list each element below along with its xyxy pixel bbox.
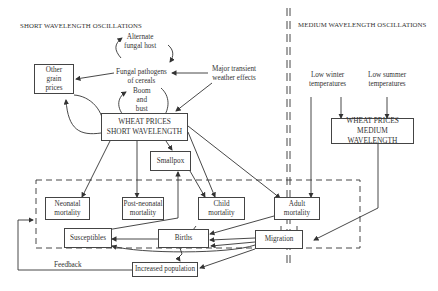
node-migration: Migration <box>255 230 303 249</box>
node-major-weather: Major transientweather effects <box>212 65 256 83</box>
node-neonatal-mortality: Neonatalmortality <box>45 197 90 220</box>
node-boom-bust: Boomandbust <box>133 87 151 114</box>
node-increased-population: Increased population <box>132 262 198 277</box>
node-births: Births <box>158 229 209 248</box>
node-low-summer: Low summertemperatures <box>368 71 406 89</box>
node-wheat-prices-medium: WHEAT PRICESMEDIUM WAVELENGTH <box>331 118 414 144</box>
node-wheat-prices-short: WHEAT PRICESSHORT WAVELENGTH <box>101 113 188 141</box>
node-fungal-pathogens: Fungal pathogensof cereals <box>116 68 167 86</box>
node-smallpox: Smallpox <box>150 151 191 171</box>
node-post-neonatal-mortality: Post-neonatalmortality <box>122 197 164 220</box>
node-susceptibles: Susceptibles <box>64 228 112 248</box>
node-child-mortality: Childmortality <box>198 197 245 220</box>
node-adult-mortality: Adultmortality <box>274 197 320 220</box>
node-alternate-host: Alternatefungal host <box>124 33 156 51</box>
label-feedback: Feedback <box>54 261 82 270</box>
section-title-short: SHORT WAVELENGTH OSCILLATIONS <box>20 22 142 29</box>
node-other-grain-prices: Othergrainprices <box>34 64 74 94</box>
section-title-medium: MEDIUM WAVELENGTH OSCILLATIONS <box>298 21 427 28</box>
node-low-winter: Low wintertemperatures <box>309 71 346 89</box>
